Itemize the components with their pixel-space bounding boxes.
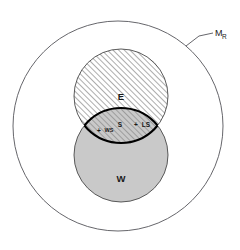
set-label-e: E xyxy=(118,91,124,102)
venn-diagram-svg: E W M R + WS S + LS xyxy=(0,0,240,250)
euler-diagram-canvas: E W M R + WS S + LS xyxy=(0,0,240,250)
point-label-s: S xyxy=(118,121,123,128)
point-marker-ls-plus: + xyxy=(134,121,138,128)
universe-label-subscript-r: R xyxy=(222,33,227,40)
point-label-ws: WS xyxy=(105,127,114,133)
point-label-ls: LS xyxy=(142,121,151,128)
set-label-w: W xyxy=(117,173,126,184)
universe-label-group: M R xyxy=(215,28,227,40)
point-marker-ws-plus: + xyxy=(97,127,101,134)
universe-label-leader-line xyxy=(186,33,213,46)
